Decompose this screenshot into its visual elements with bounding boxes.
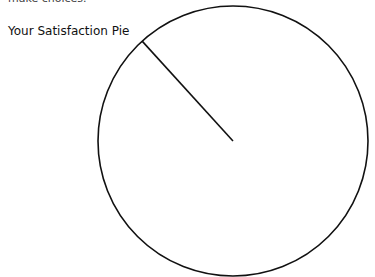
pie-chart: [0, 0, 375, 277]
